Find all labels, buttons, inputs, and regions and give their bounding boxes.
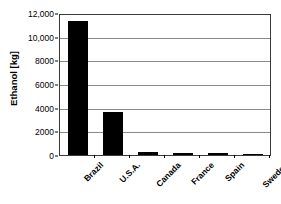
y-tickmark [55,85,58,86]
bar-brazil [68,21,88,155]
bar-slot [60,15,95,155]
ethanol-bar-chart: Ethanol [kg] 0200040006000800010,00012,0… [0,0,281,204]
plot-area [59,14,271,156]
bar-slot [165,15,200,155]
y-tickmark [55,14,58,15]
bar-slot [130,15,165,155]
y-tick-label: 8000 [35,56,54,66]
y-tick-label: 10,000 [28,33,54,43]
bar-slot [235,15,270,155]
x-category-cell: Canada [130,158,165,204]
x-category-cell: Sweden [236,158,271,204]
x-category-cell: Brazil [59,158,94,204]
bar-u-s-a [103,112,123,155]
bar-slot [200,15,235,155]
x-axis-category-labels: BrazilU.S.A.CanadaFranceSpainSweden [59,158,271,204]
y-tick-label: 4000 [35,104,54,114]
y-tickmark [55,37,58,38]
bar-slot [95,15,130,155]
y-tick-label: 0 [49,151,54,161]
y-tick-label: 2000 [35,127,54,137]
y-tickmark [55,61,58,62]
x-category-cell: Spain [200,158,235,204]
x-tick-label: Sweden [261,160,281,190]
y-tickmark [55,156,58,157]
y-tick-label: 12,000 [28,9,54,19]
bars-group [60,15,270,155]
y-tick-label: 6000 [35,80,54,90]
y-tickmark [55,108,58,109]
y-tickmark [55,132,58,133]
x-category-cell: U.S.A. [94,158,129,204]
y-axis-tick-labels: 0200040006000800010,00012,000 [16,14,58,156]
x-category-cell: France [165,158,200,204]
